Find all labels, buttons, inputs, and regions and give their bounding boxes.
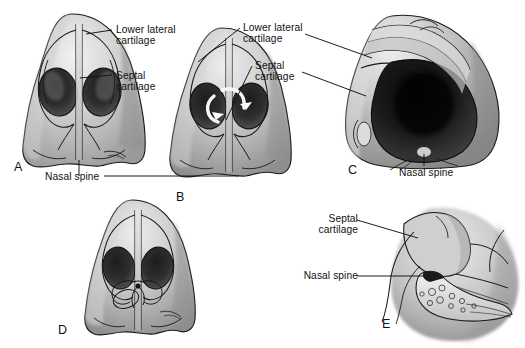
panel-e-artwork xyxy=(382,207,518,342)
label-lower-lateral-cartilage-c: Lower lateral cartilage xyxy=(243,22,303,45)
label-nasal-spine-c: Nasal spine xyxy=(399,167,453,178)
panel-letter-d: D xyxy=(58,323,67,337)
panel-letter-b: B xyxy=(176,190,185,204)
leader-c-lower-lateral-right xyxy=(305,34,372,58)
label-lower-lateral-cartilage-a: Lower lateral cartilage xyxy=(116,24,176,47)
label-septal-cartilage-c: Septal cartilage xyxy=(255,60,294,83)
panel-c-artwork xyxy=(346,15,499,170)
panel-b-artwork xyxy=(170,28,291,177)
panel-letter-a: A xyxy=(14,160,23,174)
label-septal-cartilage-e: Septal cartilage xyxy=(306,213,358,236)
figure-canvas: Lower lateral cartilage Septal cartilage… xyxy=(0,0,525,348)
panel-letter-c: C xyxy=(348,163,357,177)
label-septal-cartilage-a: Septal cartilage xyxy=(116,70,155,93)
label-nasal-spine-a: Nasal spine xyxy=(45,171,99,182)
label-nasal-spine-e: Nasal spine xyxy=(286,270,358,281)
panel-d-artwork xyxy=(85,200,195,335)
panel-letter-e: E xyxy=(382,317,391,331)
